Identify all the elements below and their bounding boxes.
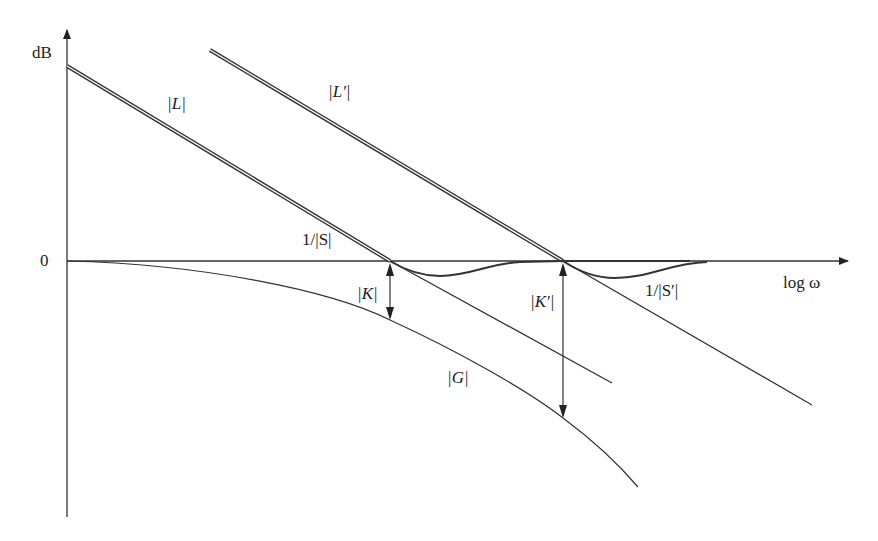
label-K-prime: |K′| (530, 292, 554, 311)
arrow-K (386, 263, 394, 320)
curve-inv-S-prime (563, 261, 707, 278)
label-inv-S-prime: 1/|S′| (645, 281, 678, 300)
y-axis-label: dB (32, 43, 52, 62)
label-K: |K| (357, 284, 378, 303)
x-axis-label: log ω (783, 273, 820, 292)
label-G: |G| (447, 368, 469, 387)
arrow-K-prime (559, 263, 567, 418)
line-L-prime (210, 50, 812, 405)
line-L (67, 66, 612, 383)
zero-tick-label: 0 (40, 251, 49, 270)
label-L-prime: |L′| (328, 82, 351, 101)
label-inv-S: 1/|S| (302, 230, 331, 249)
diagram-canvas: dB 0 log ω |L| |L′| 1/|S| 1/|S′| |K| |K′… (0, 0, 878, 541)
label-L: |L| (167, 94, 186, 113)
curve-inv-S (390, 261, 563, 276)
